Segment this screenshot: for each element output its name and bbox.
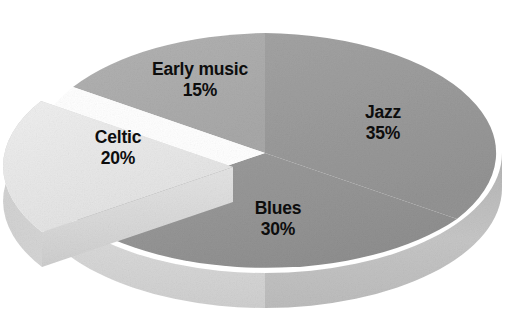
pie-chart: Jazz 35% Blues 30% Celtic 20% Early musi… [0,0,530,331]
pie-chart-graphic [0,0,530,331]
